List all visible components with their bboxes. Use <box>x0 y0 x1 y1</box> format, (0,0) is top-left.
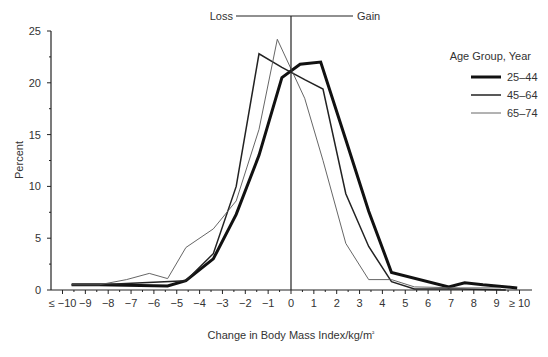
x-tick-label: 9 <box>494 297 500 309</box>
x-tick-label: 2 <box>334 297 340 309</box>
x-tick-label: 4 <box>379 297 385 309</box>
series-line-45-64 <box>72 54 506 290</box>
legend-title: Age Group, Year <box>450 50 532 62</box>
y-tick-label: 20 <box>29 77 41 89</box>
legend-label: 65–74 <box>507 107 538 119</box>
y-tick-label: 0 <box>35 284 41 296</box>
series-lines <box>72 39 518 290</box>
x-axis: ≤ −10−9−8−7−6−5−4−3−2−10123456789≥ 10 <box>49 290 532 309</box>
x-tick-label: 5 <box>402 297 408 309</box>
x-tick-label: ≥ 10 <box>509 297 530 309</box>
series-line-25-44 <box>72 62 518 288</box>
bmi-change-chart: 0510152025 ≤ −10−9−8−7−6−5−4−3−2−1012345… <box>0 0 548 357</box>
legend-label: 25–44 <box>507 71 538 83</box>
legend-label: 45–64 <box>507 89 538 101</box>
x-tick-label: 8 <box>471 297 477 309</box>
x-tick-label: 7 <box>448 297 454 309</box>
x-tick-label: −8 <box>102 297 115 309</box>
x-tick-label: 3 <box>356 297 362 309</box>
y-axis: 0510152025 <box>29 25 51 296</box>
x-tick-label: −1 <box>262 297 275 309</box>
y-axis-label: Percent <box>13 141 25 179</box>
x-tick-label: −4 <box>193 297 206 309</box>
y-tick-label: 25 <box>29 25 41 37</box>
x-axis-label-superscript: ² <box>372 329 375 336</box>
x-tick-label: −5 <box>170 297 183 309</box>
x-tick-label: ≤ −10 <box>49 297 77 309</box>
x-tick-label: −2 <box>239 297 252 309</box>
zero-reference-line <box>236 16 353 290</box>
series-line-65-74 <box>72 39 502 288</box>
y-tick-label: 5 <box>35 232 41 244</box>
loss-annotation: Loss <box>210 10 234 22</box>
x-axis-label-text: Change in Body Mass Index/kg/m <box>208 329 372 341</box>
x-tick-label: 6 <box>425 297 431 309</box>
x-tick-label: −7 <box>125 297 138 309</box>
x-tick-label: −3 <box>216 297 229 309</box>
x-tick-label: 1 <box>311 297 317 309</box>
x-tick-label: −6 <box>148 297 161 309</box>
x-tick-label: −9 <box>79 297 92 309</box>
y-tick-label: 10 <box>29 180 41 192</box>
legend: Age Group, Year 25–4445–6465–74 <box>450 50 538 119</box>
y-tick-label: 15 <box>29 129 41 141</box>
x-tick-label: 0 <box>288 297 294 309</box>
gain-annotation: Gain <box>357 10 380 22</box>
x-axis-label: Change in Body Mass Index/kg/m² <box>208 329 375 341</box>
